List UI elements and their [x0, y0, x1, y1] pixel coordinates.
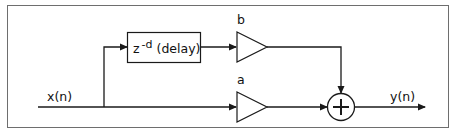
- delay-block: z-d(delay): [128, 33, 201, 63]
- delay-exponent: -d: [142, 38, 153, 51]
- output-label: y(n): [390, 89, 415, 104]
- block-diagram: x(n) z-d(delay) b a y(n): [0, 0, 459, 134]
- input-label: x(n): [47, 89, 72, 104]
- delay-base: z: [133, 41, 140, 56]
- diagram-frame: [8, 6, 449, 128]
- summing-junction: [328, 94, 355, 121]
- delay-suffix: (delay): [157, 41, 201, 56]
- gain-a-label: a: [237, 72, 245, 87]
- gain-b-label: b: [237, 12, 245, 27]
